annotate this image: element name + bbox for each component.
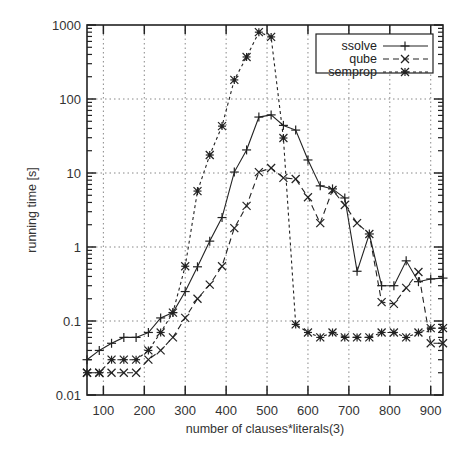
marker	[208, 153, 212, 157]
legend-label-ssolve: ssolve	[342, 39, 377, 53]
line-chart: 100200300400500600700800900 0.010.111010…	[0, 0, 467, 465]
series-ssolve	[83, 110, 448, 364]
marker	[282, 136, 286, 140]
y-tick-label: 1000	[52, 18, 81, 33]
y-tick-label: 0.01	[56, 388, 81, 403]
x-axis-tick-labels: 100200300400500600700800900	[93, 403, 442, 418]
marker	[110, 358, 114, 362]
marker	[134, 358, 138, 362]
marker	[331, 331, 335, 335]
marker	[429, 326, 433, 330]
x-tick-label: 200	[133, 403, 155, 418]
marker	[318, 336, 322, 340]
legend-label-qube: qube	[349, 52, 377, 66]
legend: ssolvequbesemprop	[316, 34, 433, 79]
marker	[392, 331, 396, 335]
marker	[306, 331, 310, 335]
marker	[147, 349, 151, 353]
x-tick-label: 800	[379, 403, 401, 418]
y-axis-tick-labels: 0.010.11101001000	[52, 18, 81, 403]
y-tick-label: 1	[74, 240, 81, 255]
x-tick-label: 700	[338, 403, 360, 418]
legend-label-semprop: semprop	[328, 65, 377, 79]
y-tick-label: 10	[67, 166, 81, 181]
series-qube	[83, 164, 447, 377]
marker	[269, 35, 273, 39]
marker	[257, 30, 261, 34]
y-tick-label: 0.1	[63, 314, 81, 329]
grid-lines	[87, 25, 443, 395]
x-tick-label: 900	[420, 403, 442, 418]
marker	[355, 336, 359, 340]
y-axis-title: running time [s]	[25, 167, 39, 252]
marker	[343, 336, 347, 340]
marker	[404, 336, 408, 340]
marker	[171, 311, 175, 315]
series-semprop	[83, 28, 447, 377]
x-tick-label: 100	[93, 403, 115, 418]
marker	[233, 78, 237, 82]
data-series	[83, 28, 448, 377]
marker	[196, 189, 200, 193]
marker	[403, 70, 407, 74]
marker	[183, 264, 187, 268]
x-axis-title: number of clauses*literals(3)	[186, 422, 344, 436]
series-line	[87, 32, 443, 373]
marker	[159, 331, 163, 335]
marker	[220, 124, 224, 128]
x-tick-label: 400	[215, 403, 237, 418]
marker	[294, 323, 298, 327]
marker	[245, 55, 249, 59]
x-tick-label: 600	[297, 403, 319, 418]
marker	[97, 371, 101, 375]
marker	[417, 331, 421, 335]
y-tick-label: 100	[59, 92, 81, 107]
series-line	[87, 168, 443, 373]
x-tick-label: 300	[174, 403, 196, 418]
marker	[380, 331, 384, 335]
marker	[368, 336, 372, 340]
x-tick-label: 500	[256, 403, 278, 418]
marker	[122, 358, 126, 362]
